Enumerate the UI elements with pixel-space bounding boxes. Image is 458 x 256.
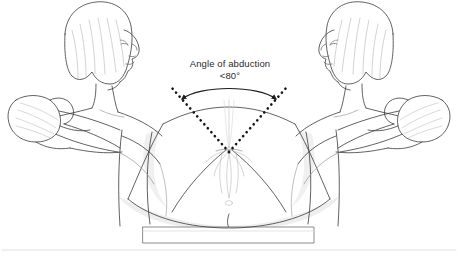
abduction-arc-arrow	[182, 89, 276, 100]
examiner-right-hand	[368, 96, 450, 149]
illustration-canvas: Angle of abduction <80°	[0, 0, 458, 256]
dotted-line-left-thigh-axis	[172, 88, 229, 152]
examiner-left	[8, 2, 167, 216]
angle-label-line2: <80°	[159, 70, 301, 82]
illustration-svg	[0, 0, 458, 256]
examination-table	[143, 227, 314, 243]
examiner-left-hand	[8, 96, 90, 149]
examiner-right	[291, 2, 450, 216]
dotted-line-right-thigh-axis	[229, 88, 286, 152]
angle-of-abduction-label: Angle of abduction <80°	[159, 58, 301, 82]
angle-label-line1: Angle of abduction	[190, 58, 271, 69]
